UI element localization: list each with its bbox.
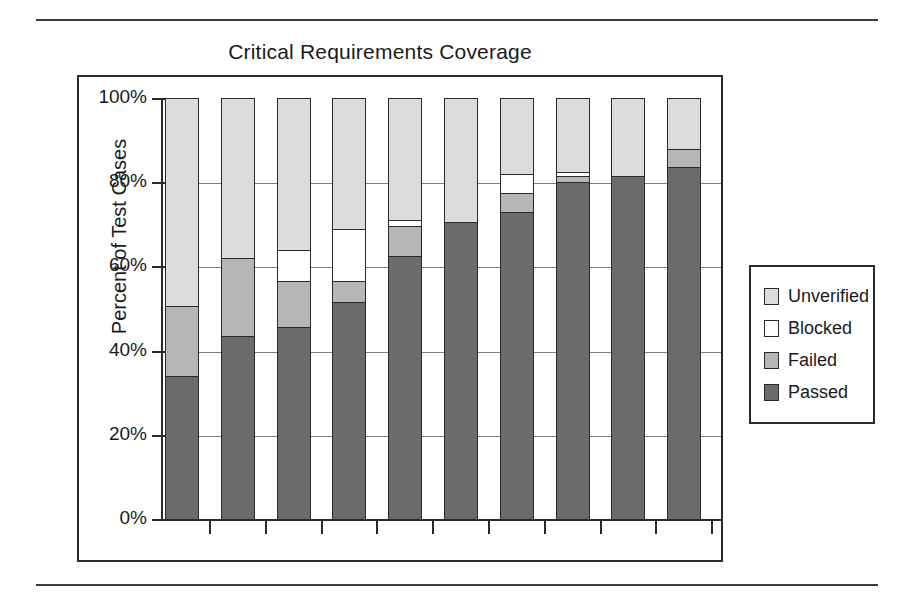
legend-swatch-icon <box>764 288 779 305</box>
legend-item-failed[interactable]: Failed <box>751 344 873 376</box>
legend-swatch-icon <box>764 352 779 369</box>
bar-segment-passed[interactable] <box>388 255 422 520</box>
bar-segment-unverified[interactable] <box>556 98 590 173</box>
bar-segment-unverified[interactable] <box>165 98 199 308</box>
bar-segment-unverified[interactable] <box>221 98 255 259</box>
bar-segment-passed[interactable] <box>667 167 701 520</box>
bar-stack[interactable] <box>221 99 255 520</box>
bar-stack[interactable] <box>611 99 645 520</box>
legend-item-unverified[interactable]: Unverified <box>751 280 873 312</box>
bar-segment-failed[interactable] <box>500 192 534 212</box>
bar-stack[interactable] <box>332 99 366 520</box>
bar-stack[interactable] <box>277 99 311 520</box>
bar-stack[interactable] <box>667 99 701 520</box>
bar-segment-failed[interactable] <box>221 258 255 337</box>
bar-segment-passed[interactable] <box>221 335 255 520</box>
legend-item-blocked[interactable]: Blocked <box>751 312 873 344</box>
bar-segment-failed[interactable] <box>165 306 199 377</box>
bar-segment-passed[interactable] <box>332 302 366 520</box>
bar-segment-unverified[interactable] <box>444 98 478 224</box>
bar-segment-unverified[interactable] <box>500 98 534 175</box>
legend-label: Blocked <box>788 318 852 339</box>
y-tick-label: 60% <box>109 254 147 276</box>
bar-segment-blocked[interactable] <box>332 228 366 282</box>
legend-label: Passed <box>788 382 848 403</box>
x-tick-mark <box>321 520 323 534</box>
bar-segment-failed[interactable] <box>667 148 701 168</box>
bar-segment-unverified[interactable] <box>667 98 701 150</box>
x-tick-mark <box>376 520 378 534</box>
y-tick-label: 0% <box>120 507 147 529</box>
y-tick-label: 40% <box>109 339 147 361</box>
bar-segment-blocked[interactable] <box>500 173 534 193</box>
y-tick-label: 100% <box>98 86 147 108</box>
bar-segment-failed[interactable] <box>332 281 366 304</box>
y-tick-label: 80% <box>109 170 147 192</box>
x-tick-mark <box>209 520 211 534</box>
legend-label: Failed <box>788 350 837 371</box>
x-tick-mark <box>600 520 602 534</box>
bar-segment-blocked[interactable] <box>277 249 311 282</box>
bar-segment-unverified[interactable] <box>332 98 366 230</box>
bar-segment-unverified[interactable] <box>388 98 422 222</box>
bar-stack[interactable] <box>500 99 534 520</box>
bar-stack[interactable] <box>388 99 422 520</box>
page-rule-top <box>36 19 878 21</box>
bar-segment-passed[interactable] <box>444 222 478 520</box>
plot-frame: Percent of Test Cases 100%80%60%40%20%0%… <box>77 75 723 562</box>
bar-group <box>163 99 721 520</box>
page-rule-bottom <box>36 584 878 586</box>
x-tick-mark <box>265 520 267 534</box>
bar-segment-passed[interactable] <box>165 375 199 520</box>
x-tick-mark <box>655 520 657 534</box>
bar-segment-unverified[interactable] <box>277 98 311 251</box>
bar-segment-passed[interactable] <box>277 327 311 520</box>
bar-stack[interactable] <box>556 99 590 520</box>
legend-swatch-icon <box>764 320 779 337</box>
bar-segment-unverified[interactable] <box>611 98 645 177</box>
legend-item-passed[interactable]: Passed <box>751 376 873 408</box>
bar-segment-passed[interactable] <box>611 175 645 520</box>
bar-segment-passed[interactable] <box>556 182 590 520</box>
bar-segment-failed[interactable] <box>277 281 311 329</box>
x-tick-mark <box>488 520 490 534</box>
x-tick-mark <box>432 520 434 534</box>
legend-swatch-icon <box>764 384 779 401</box>
x-tick-mark <box>711 520 713 534</box>
bar-stack[interactable] <box>165 99 199 520</box>
x-tick-mark <box>544 520 546 534</box>
bar-segment-passed[interactable] <box>500 211 534 520</box>
bar-segment-failed[interactable] <box>388 226 422 257</box>
bar-stack[interactable] <box>444 99 478 520</box>
chart-legend: UnverifiedBlockedFailedPassed <box>749 265 875 424</box>
legend-label: Unverified <box>788 286 869 307</box>
plot-area: 100%80%60%40%20%0% <box>163 99 721 520</box>
y-tick-label: 20% <box>109 423 147 445</box>
